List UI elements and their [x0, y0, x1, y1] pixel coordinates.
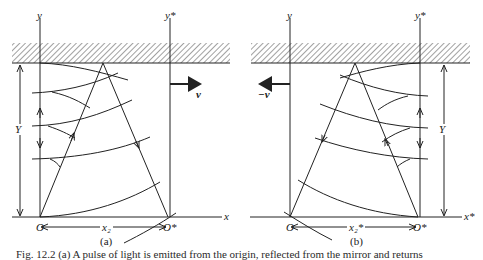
panel-b	[250, 18, 470, 240]
distance-label: x₂*	[347, 222, 365, 233]
x-star-axis-label: x*	[464, 211, 474, 222]
y-axis-label: y	[37, 10, 42, 21]
height-label: Y	[15, 124, 21, 135]
mirror-hatch	[12, 43, 230, 63]
panel-b-label: (b)	[350, 236, 363, 247]
y-star-axis-label: y*	[165, 10, 175, 21]
velocity-label: v	[196, 89, 201, 100]
velocity-label: −v	[258, 89, 270, 100]
distance-label: x₂	[100, 222, 113, 233]
panel-a	[12, 18, 230, 243]
height-label: Y	[439, 124, 445, 135]
y-axis-label: y	[287, 10, 292, 21]
x-axis-label: x	[224, 211, 229, 222]
origin-star-label: O*	[163, 222, 176, 233]
figure-caption: Fig. 12.2 (a) A pulse of light is emitte…	[16, 248, 423, 260]
light-path-right	[355, 63, 418, 217]
panel-a-label: (a)	[100, 236, 112, 247]
y-star-axis-label: y*	[415, 10, 425, 21]
origin-label: O	[36, 222, 44, 233]
origin-label: O	[286, 222, 294, 233]
mirror-hatch	[251, 43, 470, 63]
origin-star-label: O*	[413, 222, 426, 233]
light-path-down	[103, 63, 168, 217]
